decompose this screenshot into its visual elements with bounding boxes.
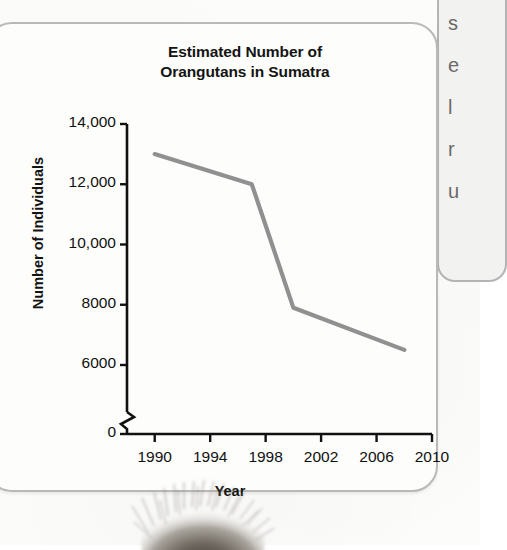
figure-panel [0,22,438,492]
y-tick-label: 6000 [30,354,116,372]
side-text-fragment: l [448,86,507,128]
side-text-fragment: s [448,2,507,44]
y-tick-label: 14,000 [30,113,116,131]
chart-title-line-2: Orangutans in Sumatra [110,62,380,82]
y-tick-label: 10,000 [30,234,116,252]
x-tick-label: 1994 [180,448,240,466]
x-tick-label: 1998 [236,448,296,466]
side-text-fragment: r [448,128,507,170]
side-text-fragment: u [448,170,507,212]
x-tick-label: 2002 [291,448,351,466]
x-tick-label: 2010 [402,448,462,466]
orangutan-photo [108,470,298,550]
side-text-fragment: e [448,44,507,86]
x-tick-label: 2006 [347,448,407,466]
chart-title: Estimated Number of Orangutans in Sumatr… [110,42,380,82]
x-tick-label: 1990 [125,448,185,466]
side-text-box: s e l r u [437,0,507,282]
y-tick-label: 12,000 [30,173,116,191]
chart-title-line-1: Estimated Number of [110,42,380,62]
side-text-lines: s e l r u [448,2,507,212]
y-tick-label: 8000 [30,294,116,312]
y-tick-label: 0 [30,423,116,441]
